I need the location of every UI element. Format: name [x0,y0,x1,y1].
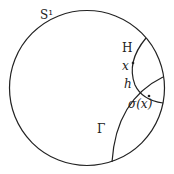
label-h: h [124,77,132,91]
label-gamma: Γ [97,122,105,136]
boundary-circle [10,11,165,166]
label-x: x [122,59,129,73]
label-sigma-x: σ(x) [128,97,153,111]
horocycle-arc-H [132,38,163,103]
label-H: H [122,41,132,55]
label-s1: S¹ [40,8,53,22]
point-x [132,62,135,65]
diagram: S¹ H x h σ(x) Γ [0,0,174,174]
